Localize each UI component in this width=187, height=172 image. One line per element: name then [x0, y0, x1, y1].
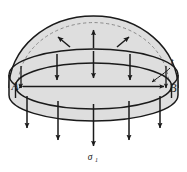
hemisphere-pressure-vessel-diagram: A B t σ 1: [0, 0, 187, 172]
label-stress-sigma: σ: [88, 152, 93, 162]
label-point-b: B: [169, 82, 176, 94]
label-stress-sigma-group: σ 1: [88, 152, 98, 163]
label-thickness-t: t: [171, 57, 174, 67]
label-point-a: A: [10, 80, 19, 92]
figure-container: A B t σ 1: [0, 0, 187, 172]
label-stress-subscript: 1: [95, 157, 98, 163]
